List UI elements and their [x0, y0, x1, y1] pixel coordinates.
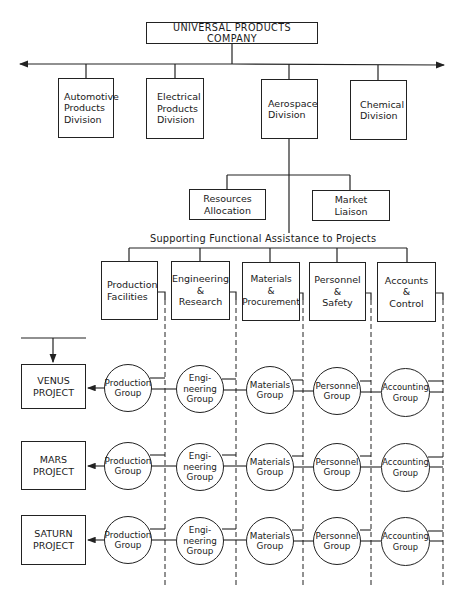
- saturn-production-group: Production Group: [104, 516, 152, 564]
- saturn-accounting-group: Accounting Group: [381, 517, 430, 566]
- function-label: Accounts & Control: [385, 275, 428, 310]
- mars-personnel-group: Personnel Group: [313, 443, 361, 491]
- function-label: Production Facilities: [107, 279, 158, 302]
- mars-accounting-group: Accounting Group: [381, 443, 430, 492]
- project-label: SATURN PROJECT: [33, 528, 74, 552]
- group-label: Materials Group: [250, 457, 290, 478]
- division-chemical: Chemical Division: [350, 80, 407, 140]
- staff-resources-allocation: Resources Allocation: [189, 189, 266, 220]
- venus-materials-group: Materials Group: [246, 366, 294, 414]
- function-production-facilities: Production Facilities: [101, 261, 158, 320]
- group-label: Materials Group: [250, 380, 290, 401]
- group-label: Engi- neering Group: [183, 451, 217, 483]
- project-mars: MARS PROJECT: [21, 441, 86, 490]
- project-label: MARS PROJECT: [33, 454, 74, 478]
- group-label: Engi- neering Group: [183, 525, 217, 557]
- group-label: Production Group: [105, 456, 152, 477]
- saturn-engineering-group: Engi- neering Group: [176, 517, 224, 565]
- saturn-materials-group: Materials Group: [246, 517, 294, 565]
- venus-personnel-group: Personnel Group: [313, 367, 361, 415]
- group-label: Engi- neering Group: [183, 373, 217, 405]
- venus-production-group: Production Group: [104, 364, 152, 412]
- group-label: Accounting Group: [382, 531, 428, 552]
- group-label: Accounting Group: [382, 457, 428, 478]
- staff-market-liaison: Market Liaison: [312, 190, 390, 221]
- function-label: Engineering & Research: [172, 273, 229, 308]
- mars-materials-group: Materials Group: [246, 443, 294, 491]
- division-label: Aerospace Division: [268, 98, 318, 121]
- group-label: Personnel Group: [316, 531, 359, 552]
- function-materials-procurement: Materials & Procurement: [242, 262, 300, 321]
- function-label: Personnel & Safety: [314, 274, 360, 309]
- division-label: Chemical Division: [360, 99, 404, 122]
- group-label: Production Group: [105, 530, 152, 551]
- function-accounts-control: Accounts & Control: [377, 262, 436, 322]
- project-label: VENUS PROJECT: [33, 375, 74, 399]
- group-label: Personnel Group: [316, 457, 359, 478]
- group-label: Personnel Group: [316, 381, 359, 402]
- function-label: Materials & Procurement: [242, 274, 300, 309]
- staff-label: Market Liaison: [334, 194, 367, 217]
- function-engineering-research: Engineering & Research: [171, 261, 230, 320]
- mars-production-group: Production Group: [104, 442, 152, 490]
- division-label: Automotive Products Division: [64, 91, 119, 126]
- division-aerospace: Aerospace Division: [261, 79, 318, 139]
- group-label: Production Group: [105, 378, 152, 399]
- group-label: Materials Group: [250, 531, 290, 552]
- company-box: UNIVERSAL PRODUCTS COMPANY: [146, 22, 318, 44]
- mars-engineering-group: Engi- neering Group: [176, 443, 224, 491]
- venus-accounting-group: Accounting Group: [381, 368, 430, 417]
- functional-heading: Supporting Functional Assistance to Proj…: [150, 233, 376, 244]
- staff-label: Resources Allocation: [203, 193, 252, 216]
- division-label: Electrical Products Division: [157, 91, 201, 126]
- saturn-personnel-group: Personnel Group: [313, 517, 361, 565]
- division-automotive: Automotive Products Division: [58, 78, 114, 138]
- company-name: UNIVERSAL PRODUCTS COMPANY: [147, 22, 317, 45]
- venus-engineering-group: Engi- neering Group: [176, 365, 224, 413]
- project-saturn: SATURN PROJECT: [21, 515, 86, 565]
- group-label: Accounting Group: [382, 382, 428, 403]
- project-venus: VENUS PROJECT: [21, 364, 86, 409]
- division-electrical: Electrical Products Division: [146, 78, 204, 139]
- function-personnel-safety: Personnel & Safety: [309, 262, 366, 321]
